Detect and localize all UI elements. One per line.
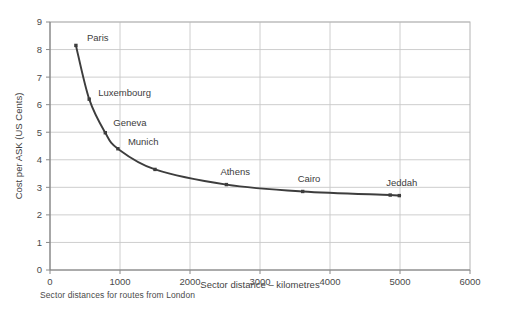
y-tick-label: 7 xyxy=(37,72,42,83)
y-tick-label: 5 xyxy=(37,127,42,138)
x-tick-label: 1000 xyxy=(109,276,130,287)
y-tick-label: 4 xyxy=(37,154,42,165)
data-point-marker xyxy=(153,168,156,171)
cost-per-ask-vs-sector-distance-chart: 0123456789 0100020003000400050006000 Par… xyxy=(0,0,508,313)
x-tick-label: 2000 xyxy=(179,276,200,287)
data-point-marker xyxy=(225,183,228,186)
y-tick-label: 1 xyxy=(37,237,42,248)
chart-figure: 0123456789 0100020003000400050006000 Par… xyxy=(0,0,508,313)
y-tick-label: 2 xyxy=(37,209,42,220)
data-point-label: Munich xyxy=(128,136,159,147)
data-point-marker xyxy=(389,193,392,196)
x-tick-label: 6000 xyxy=(459,276,480,287)
y-tick-label: 9 xyxy=(37,16,42,27)
data-point-marker xyxy=(74,44,77,47)
data-point-marker xyxy=(104,131,107,134)
x-tick-label: 4000 xyxy=(319,276,340,287)
data-point-label: Athens xyxy=(220,166,250,177)
data-point-label: Luxembourg xyxy=(98,87,151,98)
data-point-marker xyxy=(116,147,119,150)
y-axis-ticks: 0123456789 xyxy=(37,16,50,275)
data-point-marker xyxy=(398,194,401,197)
figure-caption: Sector distances for routes from London xyxy=(40,290,195,300)
data-point-label: Paris xyxy=(87,32,109,43)
y-tick-label: 3 xyxy=(37,182,42,193)
y-tick-label: 6 xyxy=(37,99,42,110)
data-point-marker xyxy=(88,97,91,100)
data-point-label: Jeddah xyxy=(386,177,417,188)
y-axis-title: Cost per ASK (US Cents) xyxy=(13,93,24,200)
x-tick-label: 5000 xyxy=(389,276,410,287)
data-point-label: Cairo xyxy=(298,173,321,184)
y-tick-label: 0 xyxy=(37,264,42,275)
x-tick-label: 0 xyxy=(47,276,52,287)
data-point-label: Geneva xyxy=(113,117,147,128)
data-point-marker xyxy=(301,190,304,193)
x-axis-title: Sector distance – kilometres xyxy=(200,279,320,290)
y-tick-label: 8 xyxy=(37,44,42,55)
